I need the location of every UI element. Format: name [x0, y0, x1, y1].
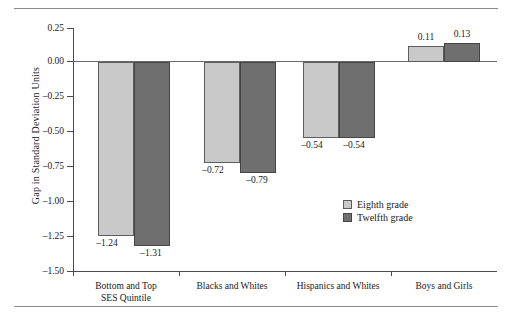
- category-label-blacks-whites: Blacks and Whites: [179, 280, 285, 292]
- y-tick-mark: [67, 236, 73, 237]
- legend-label: Eighth grade: [357, 200, 408, 210]
- y-tick-mark: [67, 96, 73, 97]
- category-label-ses-quintile: Bottom and Top SES Quintile: [73, 280, 179, 304]
- category-label-boys-girls: Boys and Girls: [391, 280, 497, 292]
- y-tick-label: –1.50: [22, 267, 64, 277]
- bar-value-label: –0.54: [334, 140, 374, 150]
- y-tick-mark: [67, 166, 73, 167]
- y-tick-label: 0.25: [22, 24, 64, 34]
- x-tick-mark: [73, 271, 74, 276]
- bar-value-label: –0.79: [237, 175, 277, 185]
- x-tick-mark: [179, 271, 180, 276]
- bar-value-label: 0.13: [442, 29, 482, 39]
- bar-value-label: –1.24: [87, 238, 127, 248]
- category-label-line: SES Quintile: [73, 292, 179, 304]
- legend: Eighth grade Twelfth grade: [343, 198, 413, 224]
- figure: Gap in Standard Deviation Units 0.25 0.0…: [0, 0, 508, 321]
- y-tick-mark: [67, 28, 73, 29]
- y-tick-label: –1.00: [22, 197, 64, 207]
- bar-value-label: 0.11: [406, 32, 446, 42]
- bar-eighth-grade-blacks-whites: [204, 62, 240, 163]
- bar-eighth-grade-ses: [98, 62, 134, 236]
- bar-eighth-grade-hispanics-whites: [303, 62, 339, 138]
- legend-swatch-icon: [343, 200, 352, 209]
- bar-twelfth-grade-hispanics-whites: [339, 62, 375, 138]
- y-tick-label: 0.00: [22, 57, 64, 67]
- top-divider-rule: [14, 8, 498, 9]
- bar-eighth-grade-boys-girls: [408, 46, 444, 62]
- bar-value-label: –1.31: [131, 248, 171, 258]
- y-tick-mark: [67, 131, 73, 132]
- y-tick-label: –0.50: [22, 127, 64, 137]
- bar-twelfth-grade-ses: [134, 62, 170, 246]
- y-axis-line: [73, 28, 74, 271]
- x-tick-mark: [391, 271, 392, 276]
- bottom-divider-rule: [14, 306, 498, 307]
- bar-value-label: –0.54: [292, 140, 332, 150]
- category-label-hispanics-whites: Hispanics and Whites: [285, 280, 391, 292]
- legend-item-eighth-grade: Eighth grade: [343, 198, 413, 211]
- y-tick-label: –0.25: [22, 92, 64, 102]
- x-tick-mark: [285, 271, 286, 276]
- bar-value-label: –0.72: [193, 165, 233, 175]
- bar-twelfth-grade-boys-girls: [444, 43, 480, 62]
- legend-swatch-icon: [343, 213, 352, 222]
- category-label-line: Bottom and Top: [73, 280, 179, 292]
- y-tick-label: –0.75: [22, 162, 64, 172]
- y-tick-label: –1.25: [22, 232, 64, 242]
- y-tick-mark: [67, 201, 73, 202]
- legend-item-twelfth-grade: Twelfth grade: [343, 211, 413, 224]
- bar-twelfth-grade-blacks-whites: [240, 62, 276, 173]
- legend-label: Twelfth grade: [357, 213, 413, 223]
